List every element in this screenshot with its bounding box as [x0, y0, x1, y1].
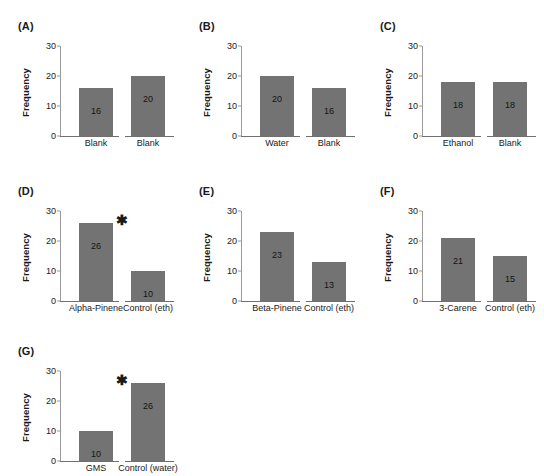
plot-area: Frequency01020302313Beta-PineneControl (… [203, 211, 355, 323]
y-tick-label: 20 [46, 396, 56, 406]
y-axis-title: Frequency [18, 46, 32, 138]
x-axis-line [241, 301, 355, 302]
significance-asterisk: ✱ [116, 213, 128, 227]
significance-asterisk: ✱ [116, 373, 128, 387]
bar-series: 2115 [422, 211, 536, 301]
bar: 20 [260, 76, 294, 136]
chart-panel-c: (C)Frequency01020301818EthanolBlank [362, 0, 544, 165]
y-tick-label: 20 [227, 71, 237, 81]
x-axis-labels: EthanolBlank [422, 138, 536, 154]
panel-label: (A) [18, 20, 34, 32]
axis-area: 01020302313Beta-PineneControl (eth) [219, 211, 355, 323]
bar: 21 [441, 238, 475, 301]
y-tick-label: 10 [408, 266, 418, 276]
x-tick-label: Blank [137, 138, 160, 148]
y-tick-label: 20 [227, 236, 237, 246]
panel-label: (E) [199, 185, 214, 197]
bar: 20 [131, 76, 165, 136]
axis-area: 01020301026GMSControl (water)✱ [38, 371, 174, 476]
bar: 10 [131, 271, 165, 301]
x-tick-label: 3-Carene [439, 303, 477, 313]
y-tick-label: 30 [227, 206, 237, 216]
axis-area: 010203021153-CareneControl (eth) [400, 211, 536, 323]
plot-area: Frequency01020302016WaterBlank [203, 46, 355, 158]
y-tick-label: 0 [232, 296, 237, 306]
panel-label: (C) [380, 20, 396, 32]
bar: 10 [79, 431, 113, 461]
bar-value-label: 21 [453, 257, 463, 266]
y-axis-title: Frequency [18, 211, 32, 303]
x-axis-line [422, 136, 536, 137]
y-axis-title-text: Frequency [382, 68, 393, 117]
x-tick-label: Control (eth) [123, 303, 173, 313]
y-tick-label: 10 [227, 101, 237, 111]
x-axis-labels: Beta-PineneControl (eth) [241, 303, 355, 319]
plot-area: Frequency01020302610Alpha-PineneControl … [22, 211, 174, 323]
bar-value-label: 20 [143, 95, 153, 104]
x-tick-label: Control (eth) [304, 303, 354, 313]
y-axis-title: Frequency [199, 46, 213, 138]
y-tick-label: 20 [408, 71, 418, 81]
x-axis-category-gap [300, 301, 306, 302]
x-axis-line [60, 461, 174, 462]
chart-panel-f: (F)Frequency010203021153-CareneControl (… [362, 165, 544, 325]
plot-inner: 01020302016WaterBlank [241, 46, 355, 136]
bar: 18 [441, 82, 475, 136]
bar: 18 [493, 82, 527, 136]
panel-grid: (A)Frequency01020301620BlankBlank(B)Freq… [0, 0, 544, 476]
bar-value-label: 26 [143, 402, 153, 411]
axis-area: 01020301620BlankBlank [38, 46, 174, 158]
x-axis-category-gap [300, 136, 306, 137]
y-tick-label: 0 [232, 131, 237, 141]
x-tick-label: GMS [86, 463, 107, 473]
bar-value-label: 16 [324, 107, 334, 116]
bar: 23 [260, 232, 294, 301]
y-tick-label: 0 [51, 131, 56, 141]
x-axis-category-gap [481, 301, 487, 302]
x-axis-category-gap [119, 461, 125, 462]
y-tick-label: 30 [408, 41, 418, 51]
plot-area: Frequency01020301818EthanolBlank [384, 46, 536, 158]
y-tick-label: 30 [46, 41, 56, 51]
y-tick-label: 10 [46, 101, 56, 111]
y-tick-label: 20 [408, 236, 418, 246]
bar-value-label: 18 [505, 101, 515, 110]
bar: 26 [131, 383, 165, 461]
bar: 13 [312, 262, 346, 301]
bar-value-label: 16 [91, 107, 101, 116]
plot-inner: 01020301818EthanolBlank [422, 46, 536, 136]
y-tick-label: 10 [46, 266, 56, 276]
plot-area: Frequency010203021153-CareneControl (eth… [384, 211, 536, 323]
y-tick-label: 30 [408, 206, 418, 216]
plot-area: Frequency01020301620BlankBlank [22, 46, 174, 158]
bar-series: 2313 [241, 211, 355, 301]
y-axis-title-text: Frequency [20, 393, 31, 442]
y-axis-title: Frequency [18, 371, 32, 463]
chart-panel-a: (A)Frequency01020301620BlankBlank [0, 0, 181, 165]
x-axis-line [60, 301, 174, 302]
bar-value-label: 13 [324, 281, 334, 290]
x-tick-label: Control (eth) [485, 303, 535, 313]
bar-value-label: 15 [505, 275, 515, 284]
y-axis-title: Frequency [380, 211, 394, 303]
y-axis-title-text: Frequency [201, 68, 212, 117]
bar-value-label: 10 [91, 450, 101, 459]
x-axis-line [422, 301, 536, 302]
y-axis-title-text: Frequency [382, 233, 393, 282]
axis-area: 01020301818EthanolBlank [400, 46, 536, 158]
plot-inner: 01020302610Alpha-PineneControl (eth)✱ [60, 211, 174, 301]
x-axis-category-gap [481, 136, 487, 137]
y-tick-label: 10 [408, 101, 418, 111]
y-tick-label: 30 [46, 366, 56, 376]
bar-value-label: 23 [272, 251, 282, 260]
y-tick-label: 0 [51, 456, 56, 466]
x-tick-label: Blank [318, 138, 341, 148]
y-tick-label: 0 [413, 131, 418, 141]
y-axis-title-text: Frequency [201, 233, 212, 282]
chart-panel-b: (B)Frequency01020302016WaterBlank [181, 0, 362, 165]
bar-value-label: 18 [453, 101, 463, 110]
x-axis-labels: WaterBlank [241, 138, 355, 154]
y-axis-title-text: Frequency [20, 233, 31, 282]
chart-panel-g: (G)Frequency01020301026GMSControl (water… [0, 325, 181, 476]
figure-multi-panel-bar-charts: (A)Frequency01020301620BlankBlank(B)Freq… [0, 0, 544, 476]
